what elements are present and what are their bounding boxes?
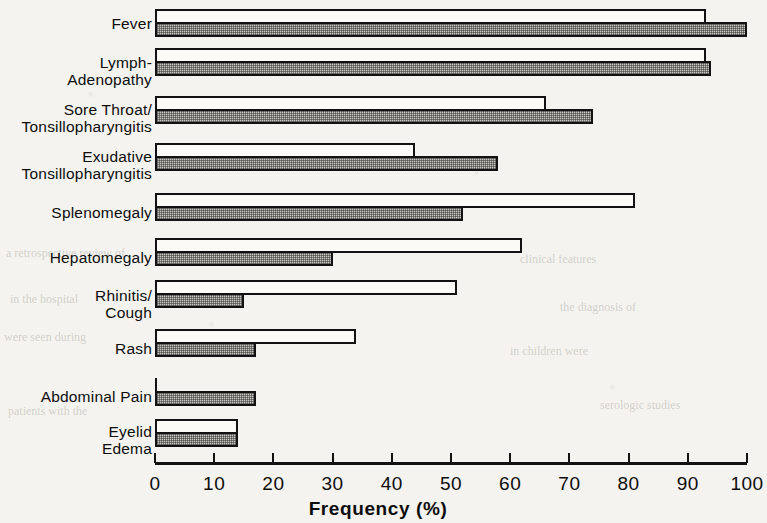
- category-label-splenomegaly: Splenomegaly: [0, 204, 152, 221]
- x-tick-label-30: 30: [313, 474, 353, 493]
- category-label-eyelid-edema: Eyelid Edema: [0, 423, 152, 457]
- category-label-sore-throat: Sore Throat/ Tonsillopharyngitis: [0, 101, 152, 135]
- category-label-exudative-tonsillo: Exudative Tonsillopharyngitis: [0, 148, 152, 182]
- x-tick-label-90: 90: [668, 474, 708, 493]
- bar-rhinitis-cough-shaded: [155, 293, 244, 308]
- ghost-text: serologic studies: [600, 398, 680, 413]
- bar-rash-shaded: [155, 342, 256, 357]
- x-tick-label-10: 10: [194, 474, 234, 493]
- x-tick-90: [687, 453, 689, 463]
- category-label-hepatomegaly: Hepatomegaly: [0, 249, 152, 266]
- bar-splenomegaly-shaded: [155, 206, 463, 221]
- x-tick-label-70: 70: [549, 474, 589, 493]
- bar-fever-shaded: [155, 22, 747, 37]
- x-tick-label-20: 20: [253, 474, 293, 493]
- x-tick-70: [568, 453, 570, 463]
- x-tick-50: [450, 453, 452, 463]
- category-label-rhinitis-cough: Rhinitis/ Cough: [0, 287, 152, 321]
- bar-sore-throat-tonsillopharyngitis-shaded: [155, 109, 593, 124]
- x-tick-20: [272, 453, 274, 463]
- x-tick-60: [509, 453, 511, 463]
- ghost-text: patients with the: [8, 404, 87, 419]
- ghost-text: clinical features: [520, 252, 596, 267]
- x-tick-100: [746, 453, 748, 463]
- category-label-lymphadenopathy: Lymph- Adenopathy: [0, 54, 152, 88]
- x-tick-label-50: 50: [431, 474, 471, 493]
- x-tick-30: [332, 453, 334, 463]
- x-tick-label-40: 40: [372, 474, 412, 493]
- x-tick-40: [391, 453, 393, 463]
- category-label-fever: Fever: [0, 15, 152, 32]
- ghost-text: in children were: [510, 344, 588, 359]
- bar-exudative-tonsillopharyngitis-shaded: [155, 156, 498, 171]
- x-tick-label-60: 60: [490, 474, 530, 493]
- x-tick-10: [213, 453, 215, 463]
- x-tick-0: [154, 453, 156, 463]
- x-tick-label-80: 80: [609, 474, 649, 493]
- category-label-abdominal-pain: Abdominal Pain: [0, 388, 152, 405]
- bar-lymphadenopathy-shaded: [155, 61, 711, 76]
- x-tick-label-100: 100: [727, 474, 767, 493]
- category-label-rash: Rash: [0, 340, 152, 357]
- x-tick-label-0: 0: [135, 474, 175, 493]
- bar-hepatomegaly-shaded: [155, 251, 333, 266]
- bar-abdominal-pain-shaded: [155, 391, 256, 406]
- axis-title: Frequency (%): [0, 498, 756, 520]
- ghost-text: the diagnosis of: [560, 300, 636, 315]
- x-tick-80: [628, 453, 630, 463]
- bar-eyelid-edema-shaded: [155, 432, 238, 447]
